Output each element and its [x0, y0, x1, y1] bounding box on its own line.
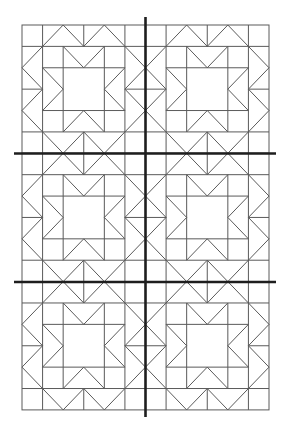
- block-seam: [248, 346, 269, 367]
- block-seam: [104, 324, 125, 345]
- block-seam: [43, 25, 64, 46]
- block-seam: [22, 196, 43, 217]
- block-seam: [187, 111, 208, 132]
- block-seam: [104, 25, 125, 46]
- block-seam: [22, 217, 43, 238]
- block-seam: [63, 111, 84, 132]
- block-seam: [104, 260, 125, 281]
- block-seam: [84, 303, 105, 324]
- block-seam: [146, 175, 167, 196]
- block-seam: [166, 196, 187, 217]
- block-seam: [187, 153, 208, 174]
- star-block-r3-c1: [22, 282, 146, 410]
- block-seam: [146, 111, 167, 132]
- block-seam: [228, 68, 249, 89]
- block-seam: [248, 46, 269, 67]
- block-seam: [248, 367, 269, 388]
- block-seam: [166, 260, 187, 281]
- block-seam: [104, 217, 125, 238]
- block-seam: [125, 68, 146, 89]
- quilt-diagram: [0, 0, 289, 434]
- block-seam: [84, 25, 105, 46]
- block-seam: [248, 111, 269, 132]
- block-seam: [84, 260, 105, 281]
- block-seam: [125, 111, 146, 132]
- block-seam: [22, 239, 43, 260]
- block-seam: [104, 346, 125, 367]
- block-seam: [63, 303, 84, 324]
- block-seam: [125, 239, 146, 260]
- block-seam: [228, 25, 249, 46]
- block-seam: [187, 303, 208, 324]
- block-seam: [84, 282, 105, 303]
- block-seam: [146, 346, 167, 367]
- block-seam: [43, 260, 64, 281]
- block-seam: [104, 68, 125, 89]
- block-seam: [228, 153, 249, 174]
- block-seam: [125, 367, 146, 388]
- block-seam: [63, 132, 84, 153]
- block-seam: [43, 346, 64, 367]
- block-seam: [43, 132, 64, 153]
- star-block-r2-c2: [146, 153, 270, 281]
- block-seam: [187, 175, 208, 196]
- block-seam: [228, 282, 249, 303]
- block-seam: [125, 89, 146, 110]
- block-seam: [125, 46, 146, 67]
- block-seam: [207, 46, 228, 67]
- block-seam: [146, 68, 167, 89]
- block-seam: [43, 217, 64, 238]
- block-seam: [248, 239, 269, 260]
- block-seam: [187, 260, 208, 281]
- block-seam: [166, 346, 187, 367]
- block-seam: [146, 217, 167, 238]
- block-seam: [43, 282, 64, 303]
- block-seam: [187, 239, 208, 260]
- block-seam: [84, 111, 105, 132]
- star-block-r2-c1: [22, 153, 146, 281]
- block-seam: [22, 303, 43, 324]
- block-seam: [84, 367, 105, 388]
- block-seam: [207, 132, 228, 153]
- block-seam: [63, 175, 84, 196]
- block-seam: [63, 239, 84, 260]
- block-seam: [22, 111, 43, 132]
- block-seam: [125, 346, 146, 367]
- block-seam: [228, 260, 249, 281]
- block-seam: [207, 282, 228, 303]
- block-seam: [125, 324, 146, 345]
- block-seam: [22, 324, 43, 345]
- block-seam: [63, 389, 84, 410]
- block-seam: [84, 239, 105, 260]
- block-seam: [43, 153, 64, 174]
- block-seam: [84, 46, 105, 67]
- block-seam: [146, 196, 167, 217]
- block-seam: [146, 46, 167, 67]
- block-seam: [63, 367, 84, 388]
- block-seam: [125, 175, 146, 196]
- block-seam: [104, 282, 125, 303]
- block-seam: [63, 282, 84, 303]
- block-seam: [166, 217, 187, 238]
- block-seam: [166, 68, 187, 89]
- star-block-r3-c2: [146, 282, 270, 410]
- star-block-r1-c1: [22, 25, 146, 153]
- block-seam: [63, 260, 84, 281]
- block-seam: [125, 217, 146, 238]
- block-seam: [187, 25, 208, 46]
- block-seam: [207, 389, 228, 410]
- block-seam: [22, 68, 43, 89]
- block-seam: [104, 89, 125, 110]
- block-seam: [104, 389, 125, 410]
- block-seam: [187, 367, 208, 388]
- block-seam: [207, 367, 228, 388]
- block-seam: [43, 389, 64, 410]
- block-seam: [146, 89, 167, 110]
- block-seam: [146, 324, 167, 345]
- block-seam: [104, 196, 125, 217]
- block-seam: [228, 132, 249, 153]
- block-seam: [22, 46, 43, 67]
- block-seam: [43, 89, 64, 110]
- block-seam: [146, 303, 167, 324]
- block-seam: [84, 389, 105, 410]
